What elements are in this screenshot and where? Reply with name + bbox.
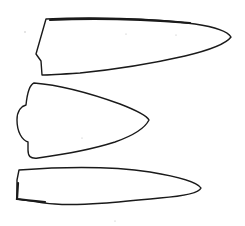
paper-speck [81, 137, 82, 138]
paper-speck [125, 33, 126, 34]
blade-2-outline [17, 83, 149, 158]
paper-speck [114, 220, 115, 221]
blade-3-outline [17, 168, 201, 205]
blade-1-outline [36, 18, 231, 75]
illustration-canvas [0, 0, 245, 226]
paper-speck [175, 34, 176, 35]
artifact-drawing [0, 0, 245, 226]
paper-speck [24, 31, 25, 32]
